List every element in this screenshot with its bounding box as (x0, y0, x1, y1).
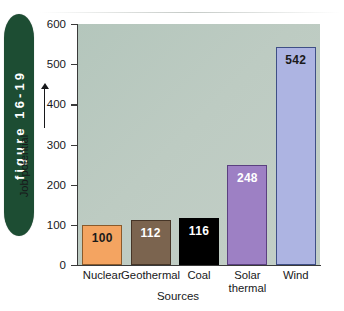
y-axis-tick (71, 265, 78, 266)
bar-value-label: 100 (92, 231, 113, 245)
y-axis-tick-label: 100 (32, 219, 66, 231)
x-label-line: Wind (266, 269, 326, 282)
y-axis-tick (71, 24, 78, 25)
y-axis-tick-label: 500 (32, 58, 66, 70)
x-axis-line (77, 265, 321, 266)
scan-artifact-line (40, 12, 340, 13)
y-axis-tick (71, 225, 78, 226)
bar-value-label: 112 (140, 226, 160, 240)
bar-nuclear: 100 (82, 225, 122, 265)
y-axis-tick-label: 200 (32, 179, 66, 191)
y-axis-tick-label: 0 (32, 259, 66, 271)
bar-solar-thermal: 248 (227, 165, 267, 265)
bar-value-label: 542 (285, 53, 306, 67)
bar-value-label: 116 (189, 224, 209, 238)
bar-wind: 542 (276, 47, 316, 265)
y-axis-tick (71, 64, 78, 65)
bar-value-label: 248 (237, 171, 258, 185)
y-axis-tick-label: 400 (32, 98, 66, 110)
y-axis-tick-label: 600 (32, 18, 66, 30)
bar-geothermal: 112 (131, 220, 171, 265)
y-axis-tick-label: 300 (32, 139, 66, 151)
y-axis-tick (71, 145, 78, 146)
y-axis-tick (71, 104, 78, 105)
y-axis-title: Job potential (18, 123, 30, 209)
y-axis-tick (71, 185, 78, 186)
bar-coal: 116 (179, 218, 219, 265)
x-axis-title-text: Sources (157, 290, 199, 302)
x-label-wind: Wind (266, 269, 326, 282)
x-axis-title: Sources (0, 290, 344, 302)
